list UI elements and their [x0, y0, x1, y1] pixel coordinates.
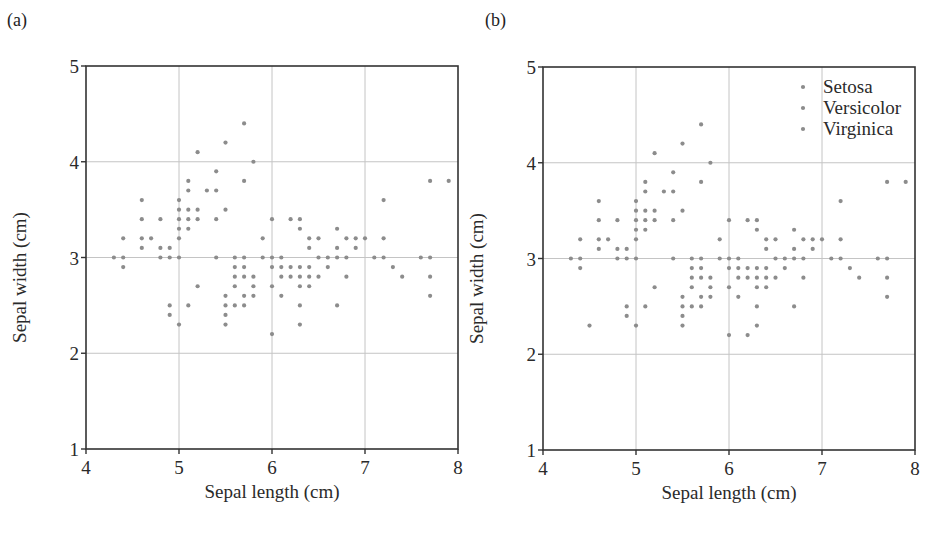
data-point	[680, 314, 684, 318]
data-point	[223, 303, 227, 307]
data-point	[708, 276, 712, 280]
data-point	[680, 295, 684, 299]
data-point	[140, 236, 144, 240]
data-point	[177, 198, 181, 202]
data-point	[214, 188, 218, 192]
series-virginica	[625, 180, 908, 309]
data-point	[690, 285, 694, 289]
scatter-panel-a: (a) 4567812345Sepal length (cm)Sepal wid…	[0, 0, 470, 536]
data-point	[307, 236, 311, 240]
data-point	[279, 275, 283, 279]
data-point	[755, 285, 759, 289]
data-point	[699, 122, 703, 126]
data-point	[746, 276, 750, 280]
data-point	[736, 266, 740, 270]
data-point	[764, 276, 768, 280]
data-point	[764, 237, 768, 241]
data-point	[335, 246, 339, 250]
data-point	[653, 218, 657, 222]
data-point	[755, 276, 759, 280]
data-point	[671, 170, 675, 174]
data-point	[168, 303, 172, 307]
data-point	[419, 255, 423, 259]
data-point	[615, 256, 619, 260]
x-tick-label: 8	[453, 457, 463, 478]
data-point	[727, 256, 731, 260]
data-point	[168, 246, 172, 250]
data-point	[625, 247, 629, 251]
data-point	[653, 151, 657, 155]
y-tick-label: 1	[527, 440, 537, 461]
y-axis-ticks: 12345	[70, 56, 87, 460]
data-point	[196, 150, 200, 154]
data-point	[242, 294, 246, 298]
scatter-plot-a: 4567812345Sepal length (cm)Sepal width (…	[0, 0, 470, 536]
data-point	[335, 255, 339, 259]
data-point	[242, 121, 246, 125]
data-point	[251, 294, 255, 298]
x-axis-title: Sepal length (cm)	[661, 482, 796, 504]
data-point	[736, 295, 740, 299]
data-point	[904, 180, 908, 184]
data-point	[708, 285, 712, 289]
data-point	[811, 237, 815, 241]
data-point	[177, 255, 181, 259]
data-point	[261, 236, 265, 240]
data-point	[428, 294, 432, 298]
data-point	[363, 236, 367, 240]
data-point	[578, 266, 582, 270]
data-point	[121, 236, 125, 240]
data-point	[307, 246, 311, 250]
data-point	[279, 255, 283, 259]
x-axis-ticks: 45678	[538, 450, 920, 479]
series-setosa	[569, 122, 713, 327]
data-point	[587, 323, 591, 327]
data-point	[792, 256, 796, 260]
data-point	[671, 218, 675, 222]
data-point	[270, 284, 274, 288]
data-point	[242, 275, 246, 279]
data-point	[615, 218, 619, 222]
data-point	[680, 323, 684, 327]
data-point	[699, 180, 703, 184]
data-point	[316, 275, 320, 279]
legend-entry: Versicolor	[823, 97, 902, 118]
data-point	[270, 265, 274, 269]
data-point	[186, 208, 190, 212]
data-point	[848, 266, 852, 270]
data-point	[699, 256, 703, 260]
scatter-panel-b: (b) 4567812345Sepal length (cm)Sepal wid…	[470, 0, 940, 536]
data-point	[428, 275, 432, 279]
data-point	[270, 255, 274, 259]
data-point	[643, 218, 647, 222]
data-point	[382, 255, 386, 259]
data-point	[597, 199, 601, 203]
x-tick-label: 4	[81, 457, 91, 478]
data-point	[718, 237, 722, 241]
data-point	[653, 285, 657, 289]
x-tick-label: 5	[174, 457, 184, 478]
data-point	[149, 236, 153, 240]
data-point	[643, 304, 647, 308]
data-point	[447, 179, 451, 183]
data-point	[428, 255, 432, 259]
data-point	[205, 188, 209, 192]
data-point	[121, 255, 125, 259]
data-point	[699, 276, 703, 280]
data-point	[400, 275, 404, 279]
y-tick-label: 2	[527, 344, 537, 365]
data-point	[699, 266, 703, 270]
data-point	[680, 142, 684, 146]
data-point	[764, 266, 768, 270]
data-point	[746, 266, 750, 270]
data-point	[634, 256, 638, 260]
data-point	[634, 323, 638, 327]
data-point	[196, 284, 200, 288]
y-axis-ticks: 12345	[527, 57, 544, 461]
data-point	[839, 256, 843, 260]
data-point	[177, 227, 181, 231]
data-point	[597, 247, 601, 251]
data-point	[242, 303, 246, 307]
data-point	[316, 255, 320, 259]
data-point	[177, 208, 181, 212]
